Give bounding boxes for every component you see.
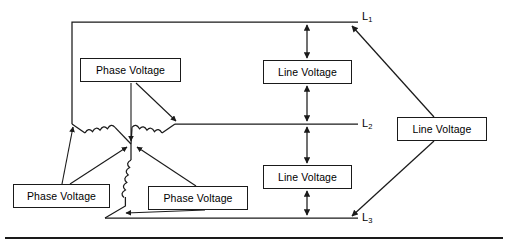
phase-voltage-right-box: Phase Voltage <box>148 186 248 210</box>
line-voltage-arrow-right-to-l3 <box>352 141 434 216</box>
winding-a-lead-out <box>115 127 131 144</box>
line-voltage-upper-box: Line Voltage <box>263 60 352 84</box>
leader-phase-voltage-right-upper <box>137 147 196 186</box>
line-voltage-lower-label: Line Voltage <box>278 171 337 183</box>
line-label-l1-sub: 1 <box>368 15 372 24</box>
line-label-l3: L3 <box>362 211 372 223</box>
winding-b-lead-in <box>162 124 175 133</box>
winding-b-coil <box>132 125 162 133</box>
winding-a-lead-in <box>72 124 85 133</box>
leader-phase-voltage-left-lower <box>70 147 127 184</box>
leader-phase-voltage-right-lower <box>126 210 205 213</box>
line-voltage-right-box: Line Voltage <box>397 117 487 141</box>
line-label-l3-sub: 3 <box>368 216 372 225</box>
leader-phase-voltage-left-upper <box>62 127 73 184</box>
line-voltage-upper-label: Line Voltage <box>278 66 337 78</box>
phase-voltage-right-label: Phase Voltage <box>163 192 232 204</box>
diagram-canvas: Phase Voltage Phase Voltage Phase Voltag… <box>0 0 508 252</box>
line-label-l1: L1 <box>362 10 372 22</box>
phase-voltage-left-label: Phase Voltage <box>27 190 96 202</box>
phase-voltage-top-label: Phase Voltage <box>96 64 165 76</box>
phase-voltage-top-box: Phase Voltage <box>80 58 181 82</box>
line-voltage-lower-box: Line Voltage <box>263 165 352 189</box>
line-voltage-arrow-right-to-l1 <box>352 26 434 117</box>
winding-c-coil <box>122 160 131 198</box>
phase-voltage-left-box: Phase Voltage <box>13 184 110 208</box>
line-label-l2: L2 <box>362 117 372 129</box>
line-label-l2-sub: 2 <box>368 122 372 131</box>
winding-a-coil <box>85 125 115 133</box>
leader-phase-voltage-top-diagonal <box>136 83 176 121</box>
line-voltage-right-label: Line Voltage <box>412 123 471 135</box>
